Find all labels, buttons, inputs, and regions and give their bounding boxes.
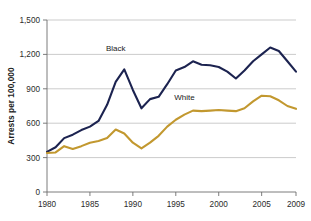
y-tick-label-1200: 1,200 [20,50,41,59]
series-line-white [47,96,296,153]
series-labels-group: BlackWhite [106,44,195,102]
x-tick-label-1990: 1990 [124,200,143,209]
data-series-group [47,48,296,153]
y-tick-label-0: 0 [35,188,40,197]
chart-plot-area: 03006009001,2001,500 1980198519901995200… [0,0,311,221]
x-axis-ticks-group: 1980198519901995200020052009 [38,192,306,209]
x-tick-label-2005: 2005 [253,200,272,209]
y-axis-ticks-group: 03006009001,2001,500 [20,16,48,197]
x-tick-label-1985: 1985 [81,200,100,209]
axes-group [47,20,296,192]
x-tick-label-2000: 2000 [210,200,229,209]
x-tick-label-1980: 1980 [38,200,57,209]
x-tick-label-1995: 1995 [167,200,186,209]
y-tick-label-600: 600 [26,119,40,128]
drug-arrest-rate-chart: 03006009001,2001,500 1980198519901995200… [0,0,311,221]
x-tick-label-2009: 2009 [287,200,306,209]
y-tick-label-300: 300 [26,154,40,163]
gridlines-group [47,20,296,158]
y-tick-label-900: 900 [26,85,40,94]
y-axis-title: Arrests per 100,000 [6,67,16,145]
series-line-black [47,48,296,152]
y-tick-label-1500: 1,500 [20,16,41,25]
series-label-black: Black [106,44,127,53]
series-label-white: White [174,93,195,102]
